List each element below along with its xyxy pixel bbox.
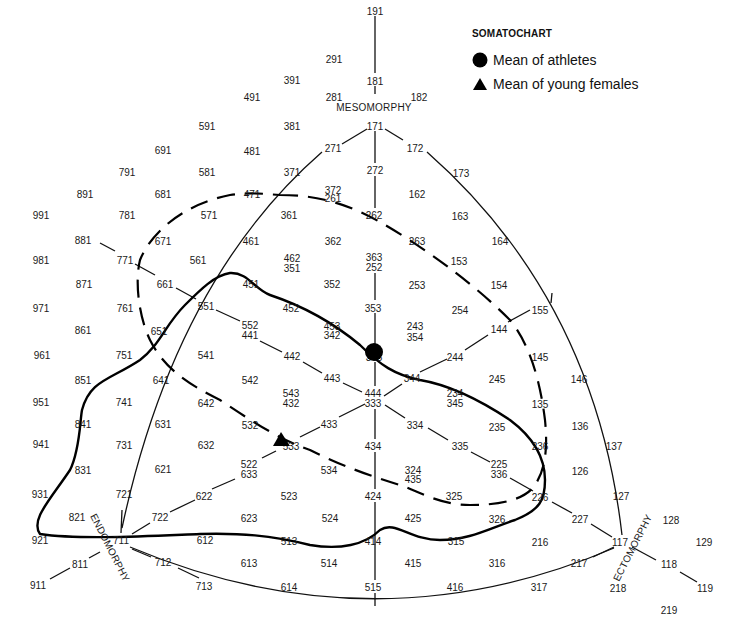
grid-label: 253 (409, 280, 426, 291)
grid-label: 551 (198, 301, 215, 312)
grid-label: 262 (366, 210, 383, 221)
grid-label: 381 (284, 121, 301, 132)
grid-label: 117 (612, 537, 628, 548)
grid-label: 136 (572, 421, 589, 432)
grid-label: 415 (405, 558, 422, 569)
grid-label: 216 (532, 537, 549, 548)
grid-label: 515 (365, 582, 382, 593)
grid-label: 191 (367, 6, 384, 17)
grid-label: 623 (241, 513, 258, 524)
grid-label: 581 (199, 167, 216, 178)
grid-label: 145 (532, 352, 549, 363)
grid-label: 433 (321, 419, 338, 430)
grid-label: 491 (244, 92, 261, 103)
grid-label: 861 (75, 325, 92, 336)
grid-label: 951 (33, 397, 50, 408)
grid-label: 352 (324, 279, 341, 290)
grid-label: 135 (532, 399, 549, 410)
grid-label: 791 (119, 167, 136, 178)
legend-item-athletes: Mean of athletes (472, 51, 639, 69)
young-females-mean-marker (273, 432, 290, 446)
grid-label: 911 (30, 580, 46, 591)
grid-label: 434 (365, 441, 382, 452)
grid-label: 128 (663, 515, 680, 526)
grid-label: 731 (116, 440, 133, 451)
grid-label: 424 (365, 491, 382, 502)
grid-label: 671 (155, 236, 172, 247)
grid-label: 154 (491, 280, 508, 291)
grid-label: 425 (405, 513, 422, 524)
grid-label: 811 (72, 559, 88, 570)
grid-label: 661 (157, 279, 174, 290)
legend-label-young-females: Mean of young females (493, 76, 639, 92)
grid-label: 614 (281, 582, 298, 593)
grid-label: 871 (76, 279, 93, 290)
grid-label: 721 (116, 489, 133, 500)
grid-label: 336 (491, 469, 508, 480)
grid-label: 137 (606, 441, 623, 452)
grid-label: 771 (117, 255, 134, 266)
grid-label: 612 (197, 535, 214, 546)
grid-label: 326 (489, 514, 506, 525)
grid-label: 227 (572, 514, 589, 525)
grid-label: 173 (453, 168, 470, 179)
grid-label: 741 (116, 397, 133, 408)
grid-label: 881 (75, 235, 92, 246)
legend-title: SOMATOCHART (472, 28, 639, 39)
grid-label: 632 (198, 440, 215, 451)
grid-label: 613 (241, 558, 258, 569)
grid-label: 118 (661, 559, 677, 570)
grid-label: 127 (613, 491, 630, 502)
grid-label: 591 (199, 121, 216, 132)
grid-label: 961 (34, 350, 51, 361)
grid-label: 981 (33, 255, 50, 266)
grid-label: 126 (572, 466, 589, 477)
grid-label: 622 (196, 491, 213, 502)
grid-label: 722 (152, 512, 169, 523)
grid-label: 144 (491, 324, 508, 335)
grid-label: 146 (571, 374, 588, 385)
grid-label: 831 (75, 465, 92, 476)
grid-label: 345 (447, 398, 464, 409)
grid-label: 452 (283, 303, 300, 314)
grid-label: 153 (451, 256, 468, 267)
grid-label: 441 (242, 330, 259, 341)
grid-label: 442 (284, 351, 301, 362)
grid-label: 155 (532, 305, 549, 316)
grid-label: 272 (367, 165, 384, 176)
grid-label: 891 (77, 189, 94, 200)
grid-label: 561 (190, 255, 207, 266)
grid-label: 291 (326, 54, 343, 65)
grid-label: 921 (32, 535, 49, 546)
grid-label: 481 (244, 146, 261, 157)
grid-label: 761 (117, 303, 134, 314)
grid-label: 751 (116, 350, 133, 361)
grid-label: 315 (448, 536, 465, 547)
legend-item-young-females: Mean of young females (472, 75, 639, 93)
grid-label: 163 (452, 211, 469, 222)
grid-label: 781 (119, 210, 136, 221)
grid-label: 271 (325, 143, 342, 154)
grid-label: 325 (446, 491, 463, 502)
grid-label: 534 (321, 465, 338, 476)
grid-label: 941 (33, 439, 50, 450)
grid-label: 317 (531, 582, 548, 593)
grid-label: 631 (155, 419, 172, 430)
grid-label: 172 (407, 143, 424, 154)
grid-label: 333 (365, 398, 382, 409)
grid-label: 245 (489, 374, 506, 385)
legend: SOMATOCHART Mean of athletes Mean of you… (472, 28, 639, 99)
grid-label: 514 (321, 558, 338, 569)
grid-label: 217 (571, 558, 588, 569)
grid-label: 524 (322, 513, 339, 524)
grid-label: 344 (404, 373, 421, 384)
grid-label: 219 (661, 605, 678, 616)
grid-label: 129 (696, 537, 713, 548)
grid-label: 236 (532, 441, 549, 452)
circle-icon (472, 52, 488, 68)
grid-label: 263 (409, 236, 426, 247)
triangle-icon (472, 77, 488, 91)
grid-label: 713 (196, 581, 213, 592)
grid-label: 991 (33, 210, 50, 221)
grid-label: 471 (244, 189, 261, 200)
